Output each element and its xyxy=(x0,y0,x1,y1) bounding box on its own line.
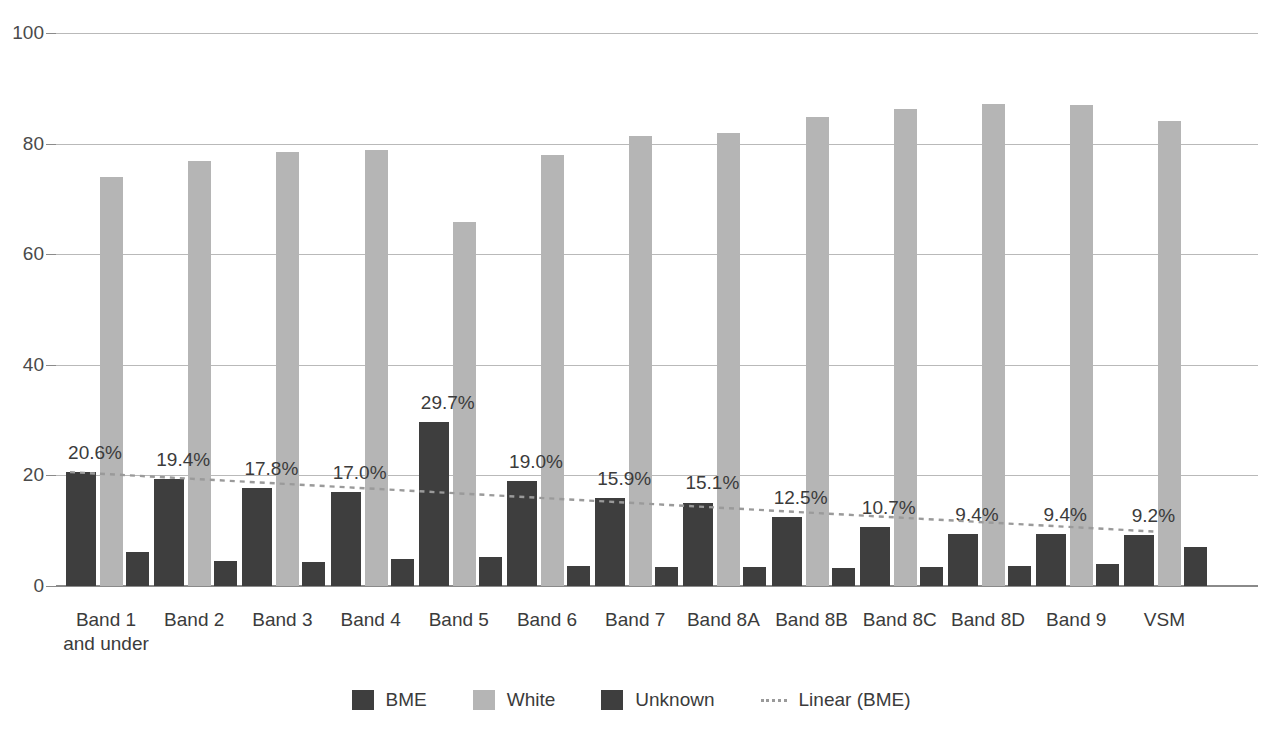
bar-white xyxy=(806,117,829,586)
data-label-bme: 29.7% xyxy=(421,392,475,414)
bar-unknown xyxy=(391,559,414,586)
x-axis-category-label: VSM xyxy=(1144,608,1185,632)
bar-unknown xyxy=(920,567,943,586)
legend-label: Linear (BME) xyxy=(799,689,911,711)
bar-bme xyxy=(154,479,184,586)
legend-swatch-icon xyxy=(601,690,623,710)
bar-bme xyxy=(1124,535,1154,586)
data-label-bme: 9.2% xyxy=(1132,505,1175,527)
y-axis-label: 40 xyxy=(23,354,44,376)
data-label-bme: 20.6% xyxy=(68,442,122,464)
bar-unknown xyxy=(126,552,149,586)
category-label-line: Band 8B xyxy=(775,608,848,632)
x-axis-category-label: Band 5 xyxy=(429,608,489,632)
y-axis-tick xyxy=(46,586,56,587)
data-label-bme: 12.5% xyxy=(774,487,828,509)
bar-bme xyxy=(860,527,890,586)
bar-white xyxy=(365,150,388,586)
bar-bme xyxy=(242,488,272,586)
y-axis-tick xyxy=(46,365,56,366)
data-label-bme: 19.0% xyxy=(509,451,563,473)
bar-unknown xyxy=(1008,566,1031,586)
x-axis-category-label: Band 1and under xyxy=(63,608,149,656)
bar-bme xyxy=(595,498,625,586)
bar-unknown xyxy=(1184,547,1207,586)
x-axis-category-label: Band 8A xyxy=(687,608,760,632)
y-axis-label: 20 xyxy=(23,464,44,486)
x-axis-category-label: Band 2 xyxy=(164,608,224,632)
y-axis-tick xyxy=(46,33,56,34)
data-label-bme: 9.4% xyxy=(1044,504,1087,526)
chart-root: 02040608010020.6%Band 1and under19.4%Ban… xyxy=(0,0,1262,745)
legend-dotted-line-icon xyxy=(761,699,787,702)
bar-unknown xyxy=(1096,564,1119,586)
legend-swatch-icon xyxy=(352,690,374,710)
bar-unknown xyxy=(743,567,766,586)
bar-white xyxy=(629,136,652,586)
data-label-bme: 19.4% xyxy=(156,449,210,471)
bar-unknown xyxy=(302,562,325,586)
y-axis-label: 80 xyxy=(23,133,44,155)
bar-bme xyxy=(507,481,537,586)
legend-label: White xyxy=(507,689,556,711)
category-label-line: Band 5 xyxy=(429,608,489,632)
x-axis-category-label: Band 6 xyxy=(517,608,577,632)
category-label-line: Band 1 xyxy=(63,608,149,632)
data-label-bme: 9.4% xyxy=(955,504,998,526)
category-label-line: Band 4 xyxy=(340,608,400,632)
category-label-line: and under xyxy=(63,632,149,656)
y-axis-label: 60 xyxy=(23,243,44,265)
category-label-line: Band 9 xyxy=(1046,608,1106,632)
bar-bme xyxy=(66,472,96,586)
x-axis-category-label: Band 8B xyxy=(775,608,848,632)
gridline xyxy=(56,33,1258,34)
bar-white xyxy=(188,161,211,586)
category-label-line: Band 2 xyxy=(164,608,224,632)
x-axis-category-label: Band 9 xyxy=(1046,608,1106,632)
x-axis-category-label: Band 8D xyxy=(951,608,1025,632)
legend-item[interactable]: White xyxy=(473,689,556,711)
legend-swatch-icon xyxy=(473,690,495,710)
legend-label: BME xyxy=(386,689,427,711)
bar-bme xyxy=(683,503,713,587)
x-axis-category-label: Band 8C xyxy=(863,608,937,632)
bar-bme xyxy=(772,517,802,586)
y-axis-label: 100 xyxy=(12,22,44,44)
category-label-line: Band 8C xyxy=(863,608,937,632)
bar-unknown xyxy=(214,561,237,586)
legend-item[interactable]: Linear (BME) xyxy=(761,689,911,711)
bar-white xyxy=(541,155,564,586)
bar-unknown xyxy=(479,557,502,586)
legend-label: Unknown xyxy=(635,689,714,711)
bar-white xyxy=(717,133,740,586)
category-label-line: Band 3 xyxy=(252,608,312,632)
bar-white xyxy=(100,177,123,586)
x-axis-category-label: Band 4 xyxy=(340,608,400,632)
bar-unknown xyxy=(832,568,855,586)
data-label-bme: 17.8% xyxy=(244,458,298,480)
y-axis-tick xyxy=(46,144,56,145)
x-axis-category-label: Band 7 xyxy=(605,608,665,632)
category-label-line: Band 8A xyxy=(687,608,760,632)
data-label-bme: 17.0% xyxy=(333,462,387,484)
category-label-line: Band 7 xyxy=(605,608,665,632)
y-axis-label: 0 xyxy=(33,575,44,597)
legend-item[interactable]: BME xyxy=(352,689,427,711)
data-label-bme: 15.1% xyxy=(685,472,739,494)
y-axis-tick xyxy=(46,475,56,476)
legend-item[interactable]: Unknown xyxy=(601,689,714,711)
bar-bme xyxy=(419,422,449,586)
y-axis-tick xyxy=(46,254,56,255)
x-axis-category-label: Band 3 xyxy=(252,608,312,632)
bar-white xyxy=(276,152,299,586)
chart-legend: BMEWhiteUnknownLinear (BME) xyxy=(0,689,1262,711)
bar-bme xyxy=(948,534,978,586)
category-label-line: Band 8D xyxy=(951,608,1025,632)
bar-bme xyxy=(1036,534,1066,586)
bar-unknown xyxy=(567,566,590,586)
category-label-line: VSM xyxy=(1144,608,1185,632)
bar-unknown xyxy=(655,567,678,586)
data-label-bme: 10.7% xyxy=(862,497,916,519)
bar-bme xyxy=(331,492,361,586)
category-label-line: Band 6 xyxy=(517,608,577,632)
